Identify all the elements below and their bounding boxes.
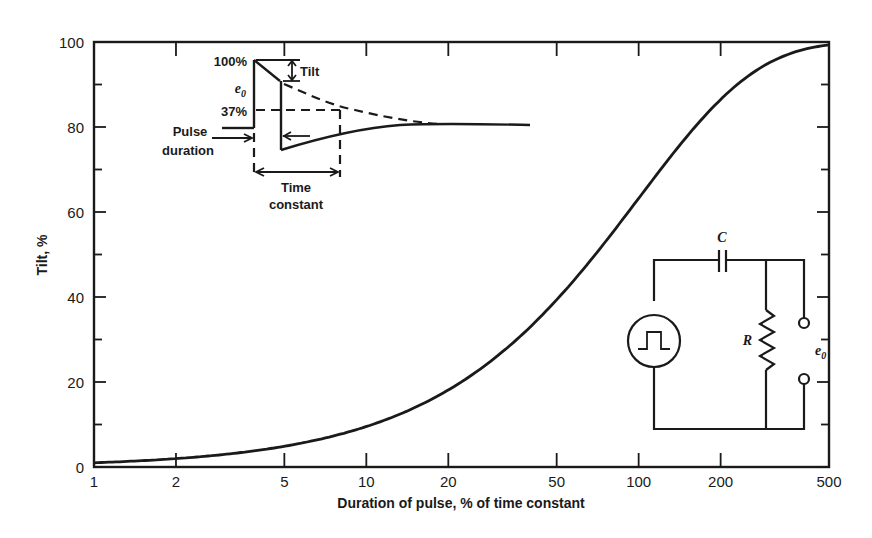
inset-label-time: Time — [281, 180, 311, 195]
tilt-chart: 020406080100 125102050100200500 Duration… — [0, 0, 872, 538]
x-tick-label: 500 — [816, 473, 841, 490]
inset-label-tilt: Tilt — [300, 64, 320, 79]
y-axis-tick-labels: 020406080100 — [59, 34, 84, 476]
x-tick-label: 1 — [90, 473, 98, 490]
inset-label-pulse: Pulse — [173, 124, 208, 139]
x-tick-label: 10 — [358, 473, 375, 490]
circuit-label-r: R — [742, 333, 752, 348]
x-axis-title: Duration of pulse, % of time constant — [337, 495, 585, 511]
x-tick-label: 200 — [708, 473, 733, 490]
y-tick-label: 60 — [67, 204, 84, 221]
y-tick-label: 0 — [76, 459, 84, 476]
y-tick-label: 100 — [59, 34, 84, 51]
x-axis-tick-labels: 125102050100200500 — [90, 473, 842, 490]
inset-label-100pct: 100% — [214, 54, 248, 69]
pulse-waveform-inset: 100% e0 37% Tilt Pulse duration Time con… — [162, 54, 530, 212]
x-tick-label: 2 — [172, 473, 180, 490]
inset-label-37pct: 37% — [221, 104, 247, 119]
y-tick-label: 40 — [67, 289, 84, 306]
y-tick-label: 20 — [67, 374, 84, 391]
circuit-label-e0: e0 — [815, 343, 826, 361]
inset-label-e0: e0 — [235, 81, 246, 99]
inset-label-duration: duration — [162, 143, 214, 158]
circuit-label-c: C — [717, 230, 727, 245]
x-tick-label: 50 — [548, 473, 565, 490]
x-tick-label: 5 — [280, 473, 288, 490]
x-tick-label: 100 — [626, 473, 651, 490]
x-tick-label: 20 — [440, 473, 457, 490]
inset-label-constant: constant — [269, 197, 324, 212]
rc-circuit-inset: C R e0 — [628, 230, 826, 429]
y-tick-label: 80 — [67, 119, 84, 136]
y-axis-title: Tilt, % — [34, 234, 50, 276]
